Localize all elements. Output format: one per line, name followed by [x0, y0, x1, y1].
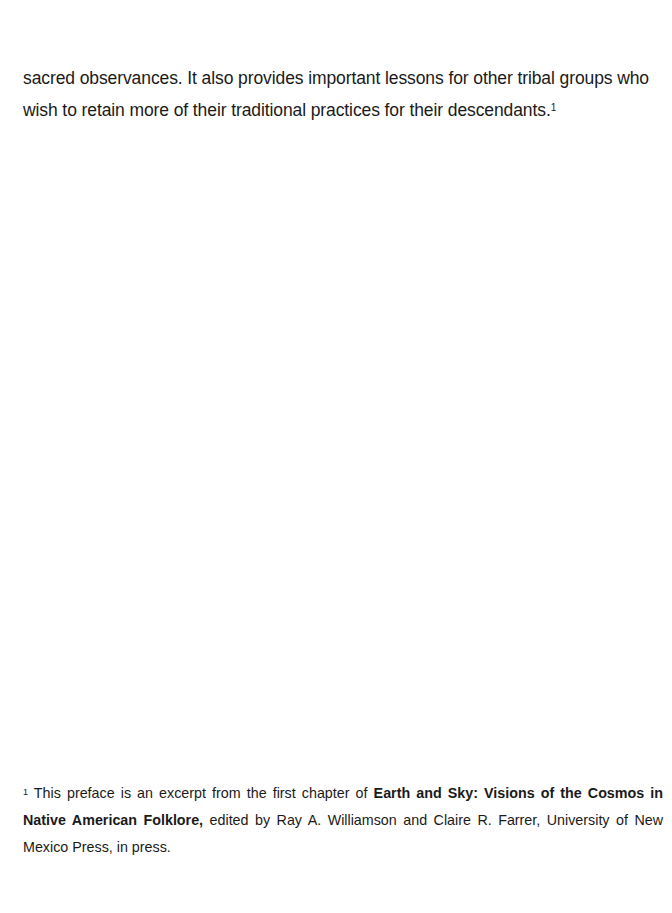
body-line-2: wish to retain more of their traditional…	[23, 94, 663, 126]
body-line-2-text: wish to retain more of their traditional…	[23, 100, 551, 120]
footnote-marker: 1	[23, 787, 28, 797]
body-line-1: sacred observances. It also provides imp…	[23, 62, 663, 94]
footnote-reference: 1	[551, 102, 556, 113]
body-paragraph: sacred observances. It also provides imp…	[23, 62, 663, 126]
footnote-intro: This preface is an excerpt from the firs…	[28, 785, 374, 801]
footnote-text: 1 This preface is an excerpt from the fi…	[23, 780, 663, 861]
footnote: 1 This preface is an excerpt from the fi…	[23, 780, 663, 861]
